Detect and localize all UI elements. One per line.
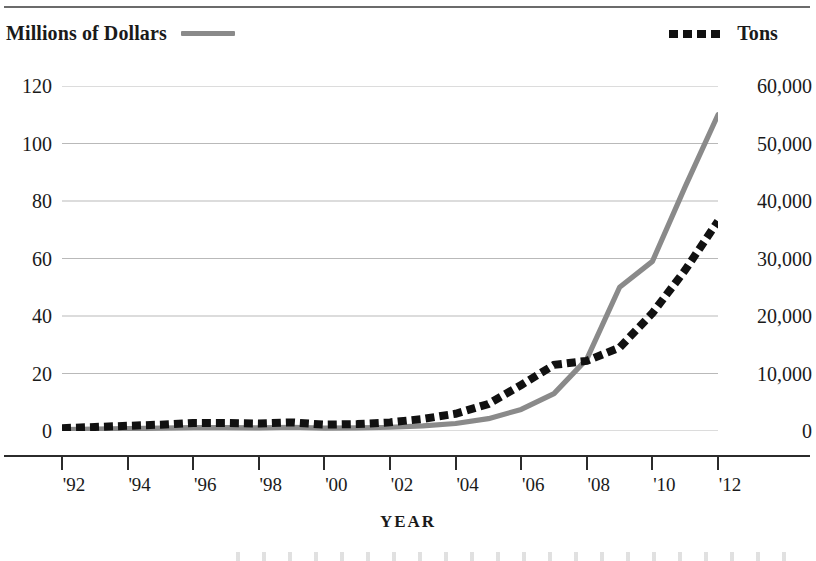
x-axis-tick-mark (61, 457, 63, 470)
legend-item-dollars: Millions of Dollars (6, 22, 235, 45)
x-axis-tick-mark (192, 457, 194, 470)
y-axis-left-tick-label: 100 (22, 134, 52, 154)
top-divider-rule (4, 6, 810, 8)
plot-area (62, 86, 718, 431)
x-axis-tick-mark (389, 457, 391, 470)
chart-figure: Millions of Dollars Tons 020406080100120… (0, 0, 816, 561)
x-axis-tick-label: '08 (588, 474, 610, 496)
x-axis-tick-mark (586, 457, 588, 470)
x-axis-tick-mark (651, 457, 653, 470)
x-axis-tick-label: '04 (456, 474, 478, 496)
y-axis-left-tick-label: 60 (32, 249, 52, 269)
solid-gray-line-icon (181, 31, 235, 36)
series-line-tons (62, 221, 718, 428)
y-axis-right-tick-label: 50,000 (726, 134, 812, 154)
x-axis-tick-mark (323, 457, 325, 470)
y-axis-right-tick-label: 20,000 (726, 306, 812, 326)
dotted-black-line-icon (669, 30, 723, 38)
x-axis-tick-label: '96 (194, 474, 216, 496)
x-axis-title: YEAR (0, 512, 816, 532)
x-axis-tick-label: '94 (128, 474, 150, 496)
x-axis-tick-mark (127, 457, 129, 470)
y-axis-right-tick-label: 30,000 (726, 249, 812, 269)
legend-label-dollars: Millions of Dollars (6, 22, 167, 45)
y-axis-left-tick-label: 20 (32, 364, 52, 384)
x-axis-tick-label: '06 (522, 474, 544, 496)
x-axis-tick-mark (455, 457, 457, 470)
x-axis-tick-label: '02 (391, 474, 413, 496)
x-axis-tick-label: '10 (653, 474, 675, 496)
plot-svg (62, 86, 718, 431)
gridlines (62, 86, 718, 431)
x-axis-tick-mark (520, 457, 522, 470)
x-axis-tick-label: '92 (63, 474, 85, 496)
y-axis-left-tick-label: 80 (32, 191, 52, 211)
chart-legend: Millions of Dollars Tons (0, 22, 816, 52)
y-axis-left-tick-label: 120 (22, 76, 52, 96)
legend-item-tons: Tons (669, 22, 778, 45)
x-axis-tick-mark (717, 457, 719, 470)
x-axis-tick-label: '00 (325, 474, 347, 496)
y-axis-right-tick-label: 0 (726, 421, 812, 441)
y-axis-right-tick-label: 10,000 (726, 364, 812, 384)
x-axis-ticks (0, 457, 816, 471)
y-axis-left-tick-label: 40 (32, 306, 52, 326)
x-axis-tick-label: '98 (260, 474, 282, 496)
x-axis-tick-mark (258, 457, 260, 470)
y-axis-right-tick-label: 40,000 (726, 191, 812, 211)
y-axis-left-tick-label: 0 (42, 421, 52, 441)
y-axis-right-tick-label: 60,000 (726, 76, 812, 96)
x-axis-labels: '92'94'96'98'00'02'04'06'08'10'12 (0, 474, 816, 504)
page-bottom-artifact (230, 552, 790, 561)
legend-label-tons: Tons (737, 22, 778, 45)
x-axis-tick-label: '12 (719, 474, 741, 496)
series-line-dollars (62, 115, 718, 430)
